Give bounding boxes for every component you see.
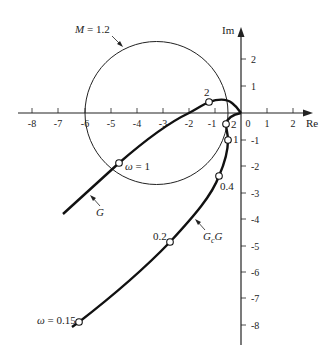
g-point-omega-2 <box>206 99 213 106</box>
gcg-point-omega-1 <box>225 137 232 144</box>
nyquist-chart: -8 -7 -6 -5 -4 -3 -2 -1 0 1 2 Re Im 2 1 … <box>0 0 332 361</box>
x-tick-label: 0 <box>246 118 251 129</box>
y-tick-label: -2 <box>251 161 259 172</box>
x-ticks <box>32 108 293 113</box>
x-tick-label: 1 <box>265 118 270 129</box>
x-axis-label: Re <box>306 117 318 129</box>
x-tick-label: -1 <box>208 118 216 129</box>
y-tick-label: 2 <box>251 54 256 65</box>
gcg-label-omega-0.15: ω = 0.15 <box>37 314 76 326</box>
gcg-point-omega-0.15 <box>76 319 83 326</box>
re-axis-arrow-icon <box>303 110 313 117</box>
g-label-omega-2: 2 <box>204 86 210 98</box>
x-tick-label: -7 <box>54 118 62 129</box>
y-tick-label: -5 <box>251 241 259 252</box>
x-tick-label: 2 <box>291 118 296 129</box>
gcg-point-omega-0.2 <box>167 239 174 246</box>
y-tick-label: 1 <box>251 81 256 92</box>
x-tick-label: -2 <box>185 118 193 129</box>
gcg-curve <box>72 113 241 327</box>
y-ticks <box>241 59 246 325</box>
gcg-label-omega-0.2: 0.2 <box>153 230 167 242</box>
y-axis-label: Im <box>222 24 235 36</box>
g-point-omega-1 <box>116 160 123 167</box>
g-curve-label: G <box>96 206 104 218</box>
x-tick-labels: -8 -7 -6 -5 -4 -3 -2 -1 0 1 2 <box>28 118 296 129</box>
axes <box>18 27 313 345</box>
x-tick-label: -8 <box>28 118 36 129</box>
y-tick-label: -7 <box>251 293 259 304</box>
x-tick-label: -4 <box>133 118 141 129</box>
m-circle-label: M = 1.2 <box>74 23 110 35</box>
y-tick-label: -1 <box>251 135 259 146</box>
y-tick-label: -4 <box>251 214 259 225</box>
y-tick-label: -6 <box>251 267 259 278</box>
gcg-curve-label: GcG <box>203 230 223 245</box>
im-axis-arrow-icon <box>238 27 245 37</box>
gcg-point-omega-0.4 <box>216 173 223 180</box>
y-tick-label: -8 <box>251 320 259 331</box>
g-label-omega-1: ω = 1 <box>125 160 150 172</box>
y-tick-labels: 2 1 -1 -2 -3 -4 -5 -6 -7 -8 <box>251 54 259 331</box>
gcg-label-omega-0.4: 0.4 <box>220 180 234 192</box>
g-curve <box>63 100 241 214</box>
x-tick-label: -5 <box>107 118 115 129</box>
gcg-label-omega-1: 1 <box>233 133 239 145</box>
gcg-point-omega-2 <box>223 121 230 128</box>
y-tick-label: -3 <box>251 188 259 199</box>
gcg-label-omega-2: 2 <box>231 118 237 130</box>
